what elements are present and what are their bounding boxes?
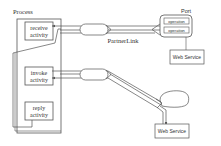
- port-title: Port: [181, 8, 192, 14]
- partner-link-label: PartnerLink: [107, 37, 139, 44]
- bpel-diagram: Process receive activity invoke activity…: [0, 0, 221, 146]
- svg-text:activity: activity: [30, 77, 48, 83]
- svg-text:Web Service: Web Service: [158, 128, 186, 134]
- svg-text:reply: reply: [33, 105, 45, 111]
- invoke-activity[interactable]: invoke activity: [25, 67, 53, 85]
- svg-text:Web Service: Web Service: [173, 54, 201, 60]
- operation-1[interactable]: operation: [164, 18, 189, 24]
- operation-2[interactable]: operation: [164, 27, 189, 33]
- web-service-top[interactable]: Web Service: [170, 50, 204, 64]
- svg-text:activity: activity: [30, 32, 48, 38]
- svg-text:receive: receive: [30, 25, 48, 31]
- web-service-bottom[interactable]: Web Service: [155, 124, 189, 138]
- svg-text:operation: operation: [168, 19, 185, 24]
- receive-activity[interactable]: receive activity: [25, 22, 53, 40]
- svg-text:operation: operation: [168, 28, 185, 33]
- svg-text:activity: activity: [30, 112, 48, 118]
- svg-text:invoke: invoke: [31, 70, 48, 76]
- partner-link-top: [52, 24, 162, 35]
- reply-activity[interactable]: reply activity: [25, 102, 53, 120]
- partner-link-bottom: [52, 69, 189, 125]
- process-title: Process: [13, 8, 33, 15]
